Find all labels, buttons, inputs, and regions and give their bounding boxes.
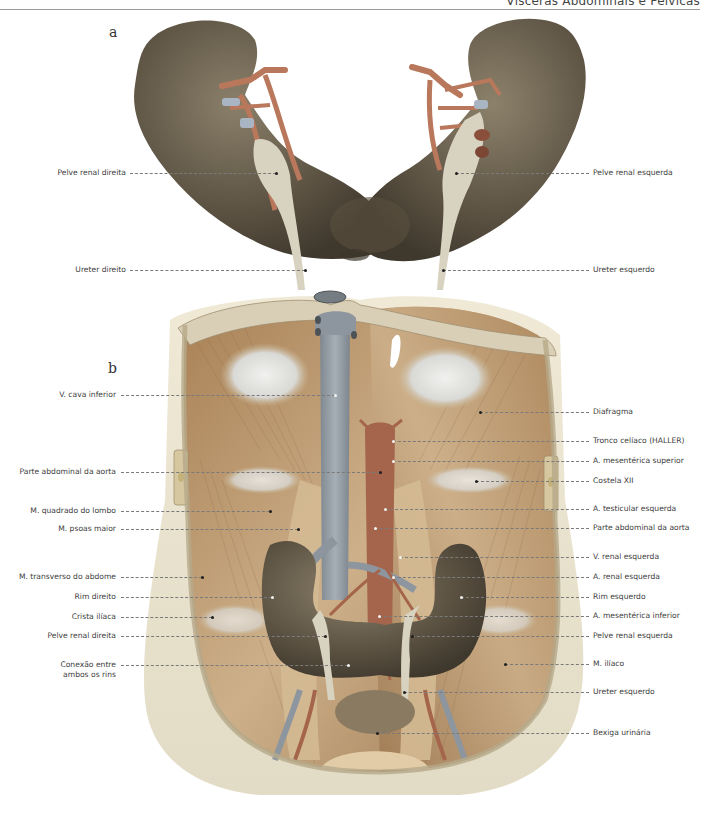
label-rim-esquerdo: Rim esquerdo [593, 592, 646, 602]
leader-line [130, 270, 305, 271]
pointer-dot [442, 269, 445, 272]
pointer-dot [504, 663, 507, 666]
pointer-dot [347, 664, 350, 667]
label-m-quadrado-lombo: M. quadrado do lombo [30, 506, 116, 516]
pointer-dot [392, 440, 395, 443]
label-parte-abdominal-aorta-right: Parte abdominal da aorta [593, 523, 689, 533]
leader-line [121, 577, 202, 578]
leader-line [377, 733, 589, 734]
horseshoe-kidney-figure-a [134, 19, 586, 290]
label-ureter-esquerdo-a: Ureter esquerdo [593, 265, 655, 275]
leader-line [393, 577, 589, 578]
label-tronco-celiaco: Tronco celíaco (HALLER) [593, 436, 685, 446]
label-m-psoas-maior: M. psoas maior [58, 524, 116, 534]
label-diafragma: Diafragma [593, 407, 633, 417]
pointer-dot [211, 616, 214, 619]
label-a-mesenterica-superior: A. mesentérica superior [593, 456, 684, 466]
leader-line [379, 616, 589, 617]
leader-line [121, 665, 348, 666]
pointer-dot [399, 556, 402, 559]
leader-line [412, 636, 589, 637]
leader-line [375, 528, 589, 529]
label-costela-xii: Costela XII [593, 476, 633, 486]
label-ureter-direito-a: Ureter direito [75, 265, 126, 275]
label-pelve-renal-direita-a: Pelve renal direita [57, 168, 126, 178]
label-m-transverso-abdome: M. transverso do abdome [19, 572, 116, 582]
label-a-renal-esquerda: A. renal esquerda [593, 572, 660, 582]
leader-line [476, 481, 589, 482]
label-crista-iliaca: Crista ilíaca [72, 612, 116, 622]
leader-line [121, 597, 272, 598]
label-m-iliaco: M. ilíaco [593, 659, 624, 669]
label-line-2: ambos os rins [63, 670, 116, 679]
pointer-dot [334, 394, 337, 397]
leader-line [385, 509, 589, 510]
label-pelve-renal-esquerda-b: Pelve renal esquerda [593, 631, 673, 641]
label-a-testicular-esquerda: A. testicular esquerda [593, 504, 676, 514]
pointer-dot [304, 269, 307, 272]
pointer-dot [379, 471, 382, 474]
leader-line [121, 472, 380, 473]
leader-line [121, 511, 270, 512]
pointer-dot [392, 576, 395, 579]
pointer-dot [455, 172, 458, 175]
label-v-cava-inferior: V. cava inferior [59, 390, 116, 400]
label-pelve-renal-esquerda-a: Pelve renal esquerda [593, 168, 673, 178]
pointer-dot [411, 635, 414, 638]
label-v-renal-esquerda: V. renal esquerda [593, 552, 659, 562]
label-ureter-esquerdo-b: Ureter esquerdo [593, 687, 655, 697]
pointer-dot [271, 596, 274, 599]
leader-line [393, 461, 589, 462]
pointer-dot [201, 576, 204, 579]
leader-line [505, 664, 589, 665]
leader-line [121, 636, 325, 637]
leader-line [480, 412, 589, 413]
label-pelve-renal-direita-b: Pelve renal direita [47, 631, 116, 641]
leader-line [456, 173, 589, 174]
leader-line [121, 395, 335, 396]
pointer-dot [297, 528, 300, 531]
label-line-1: Conexão entre [60, 660, 116, 669]
posterior-abdominal-wall-figure-b [144, 291, 583, 795]
label-parte-abdominal-aorta-left: Parte abdominal da aorta [20, 467, 116, 477]
label-rim-direito: Rim direito [75, 592, 117, 602]
leader-line [121, 617, 212, 618]
pointer-dot [378, 615, 381, 618]
leader-line [443, 270, 589, 271]
leader-line [461, 597, 589, 598]
pointer-dot [376, 732, 379, 735]
pointer-dot [384, 508, 387, 511]
pointer-dot [460, 596, 463, 599]
label-bexiga-urinaria: Bexiga urinária [593, 728, 651, 738]
pointer-dot [269, 510, 272, 513]
pointer-dot [475, 480, 478, 483]
pointer-dot [324, 635, 327, 638]
label-conexao-entre-rins: Conexão entre ambos os rins [26, 660, 116, 680]
leader-line [404, 692, 589, 693]
leader-line [121, 529, 298, 530]
pointer-dot [403, 691, 406, 694]
leader-line [393, 441, 589, 442]
leader-line [400, 557, 589, 558]
label-a-mesenterica-inferior: A. mesentérica inferior [593, 611, 680, 621]
pointer-dot [392, 460, 395, 463]
pointer-dot [479, 411, 482, 414]
pointer-dot [275, 172, 278, 175]
pointer-dot [374, 527, 377, 530]
leader-line [130, 173, 276, 174]
